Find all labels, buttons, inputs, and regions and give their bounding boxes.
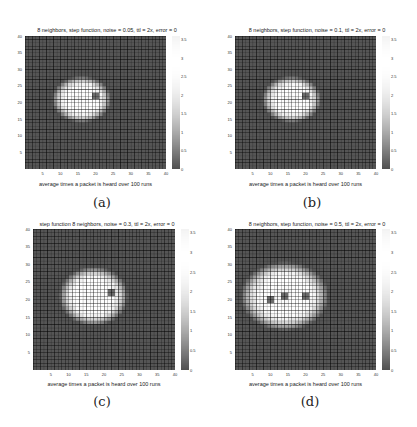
colorbar-tick-label: 0 [190,368,192,373]
x-tick-label: 10 [265,372,275,377]
y-tick-label: 10 [222,332,232,337]
heatmap-plot [235,36,376,169]
x-tick-label: 5 [38,171,48,176]
colorbar-tick-label: 2 [181,93,183,98]
colorbar-ticks: 3.532.521.510.50 [391,229,411,370]
colorbar-tick-label: 3 [181,56,183,61]
y-axis: 510152025303540 [222,229,234,370]
chart-title: 8 neighbors, step function, noise = 0.05… [22,27,192,33]
x-tick-label: 5 [248,372,258,377]
y-tick-label: 15 [20,315,30,320]
y-tick-label: 40 [12,34,22,39]
y-tick-label: 20 [222,100,232,105]
colorbar-tick-label: 2.5 [391,270,397,275]
y-tick-label: 35 [222,50,232,55]
heatmap-canvas [235,229,376,370]
colorbar [382,36,390,169]
x-tick-label: 5 [46,372,56,377]
colorbar-tick-label: 0.5 [391,148,397,153]
y-tick-label: 30 [222,262,232,267]
x-axis: 510152025303540 [235,371,376,379]
y-tick-label: 35 [12,50,22,55]
colorbar-tick-label: 3.5 [190,230,196,235]
subfigure-label: (d) [290,394,330,409]
y-tick-label: 15 [222,315,232,320]
y-axis: 510152025303540 [12,36,24,169]
y-tick-label: 25 [222,279,232,284]
y-tick-label: 5 [222,150,232,155]
x-tick-label: 20 [301,171,311,176]
y-tick-label: 30 [12,67,22,72]
colorbar-tick-label: 3.5 [181,37,187,42]
panel-d: 8 neighbors, step function, noise = 0.5,… [210,214,417,427]
x-tick-label: 15 [81,372,91,377]
x-tick-label: 40 [371,372,381,377]
x-tick-label: 30 [126,171,136,176]
x-axis-label: average times a packet is heard over 100… [235,381,376,387]
colorbar-tick-label: 0 [181,167,183,172]
x-tick-label: 40 [170,372,180,377]
x-axis-label: average times a packet is heard over 100… [33,381,175,387]
colorbar-tick-label: 2.5 [190,270,196,275]
subfigure-label: (b) [292,195,332,210]
x-tick-label: 15 [73,171,83,176]
colorbar-tick-label: 1.5 [391,111,397,116]
x-tick-label: 20 [91,171,101,176]
y-tick-label: 30 [222,67,232,72]
panel-c: step function 8 neighbors, noise = 0.3, … [0,214,208,427]
x-tick-label: 35 [143,171,153,176]
y-tick-label: 15 [12,117,22,122]
x-tick-label: 35 [353,171,363,176]
heatmap-plot [25,36,166,169]
x-tick-label: 25 [318,372,328,377]
x-tick-label: 30 [336,171,346,176]
y-tick-label: 20 [12,100,22,105]
colorbar-tick-label: 2 [391,289,393,294]
y-tick-label: 15 [222,117,232,122]
colorbar-tick-label: 1.5 [190,309,196,314]
x-tick-label: 30 [336,372,346,377]
x-tick-label: 30 [135,372,145,377]
y-tick-label: 10 [222,133,232,138]
colorbar-tick-label: 0.5 [181,148,187,153]
colorbar-ticks: 3.532.521.510.50 [190,229,208,370]
y-tick-label: 25 [222,83,232,88]
y-axis: 510152025303540 [20,229,32,370]
colorbar-tick-label: 1 [190,328,192,333]
colorbar-canvas [382,229,390,370]
x-tick-label: 10 [64,372,74,377]
colorbar-tick-label: 1.5 [181,111,187,116]
colorbar-canvas [181,229,189,370]
heatmap-plot [33,229,175,370]
y-tick-label: 10 [12,133,22,138]
chart-title: 8 neighbors, step function, noise = 0.5,… [232,221,402,227]
x-tick-label: 40 [161,171,171,176]
x-axis: 510152025303540 [25,170,166,178]
heatmap-canvas [33,229,175,370]
y-tick-label: 35 [222,244,232,249]
x-tick-label: 35 [152,372,162,377]
y-tick-label: 30 [20,262,30,267]
colorbar [382,229,390,370]
subfigure-label: (c) [82,394,122,409]
x-axis-label: average times a packet is heard over 100… [25,181,166,187]
x-tick-label: 40 [371,171,381,176]
y-tick-label: 25 [12,83,22,88]
x-tick-label: 20 [301,372,311,377]
colorbar-ticks: 3.532.521.510.50 [391,36,411,169]
colorbar-tick-label: 3 [190,250,192,255]
x-tick-label: 35 [353,372,363,377]
colorbar-tick-label: 3.5 [391,37,397,42]
colorbar-tick-label: 0.5 [391,348,397,353]
colorbar-tick-label: 0 [391,167,393,172]
colorbar-tick-label: 3 [391,56,393,61]
heatmap-plot [235,229,376,370]
y-tick-label: 5 [12,150,22,155]
colorbar [172,36,180,169]
y-tick-label: 20 [20,297,30,302]
y-tick-label: 40 [222,227,232,232]
colorbar-tick-label: 0 [391,368,393,373]
x-tick-label: 10 [55,171,65,176]
x-tick-label: 10 [265,171,275,176]
colorbar-tick-label: 1 [391,130,393,135]
